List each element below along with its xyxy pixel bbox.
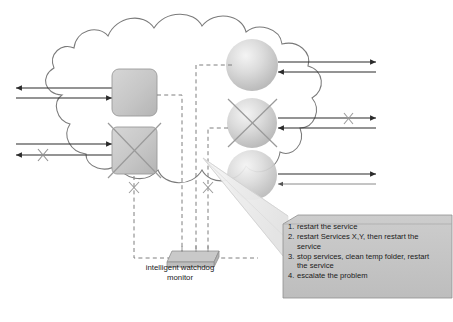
callout-list-item: 3. stop services, clean temp folder, res… — [288, 252, 438, 271]
server-box-bottom — [108, 123, 161, 178]
monitor-label: intelligent watchdog monitor — [118, 263, 242, 283]
right-arrow-group-middle — [278, 113, 376, 128]
callout-item-text: restart the service — [297, 222, 438, 232]
callout-list: 1. restart the service 2. restart Servic… — [288, 222, 438, 282]
callout-item-number: 3. — [288, 252, 297, 271]
callout-item-text: escalate the problem — [297, 271, 438, 281]
server-box-top — [112, 69, 157, 116]
callout-item-number: 2. — [288, 232, 297, 251]
right-arrow-group-top — [278, 62, 376, 72]
callout-list-item: 1. restart the service — [288, 222, 438, 232]
service-sphere-top — [226, 39, 278, 91]
service-sphere-middle — [227, 98, 277, 148]
callout-item-number: 4. — [288, 271, 297, 281]
dashed-link-sphere-top — [196, 65, 232, 254]
callout-list-item: 2. restart Services X,Y, then restart th… — [288, 232, 438, 251]
dashed-link-server-bottom — [134, 176, 172, 258]
diagram-canvas: 1. restart the service 2. restart Servic… — [0, 0, 453, 322]
callout-item-text: restart Services X,Y, then restart the s… — [297, 232, 438, 251]
monitor-label-line-2: monitor — [118, 273, 242, 283]
callout-item-text: stop services, clean temp folder, restar… — [297, 252, 438, 271]
callout-item-number: 1. — [288, 222, 297, 232]
left-arrow-group-top — [16, 88, 112, 98]
callout-list-item: 4. escalate the problem — [288, 271, 438, 281]
monitor-label-line-1: intelligent watchdog — [118, 263, 242, 273]
left-arrow-group-bottom — [16, 144, 112, 161]
right-arrow-group-bottom — [278, 174, 376, 184]
